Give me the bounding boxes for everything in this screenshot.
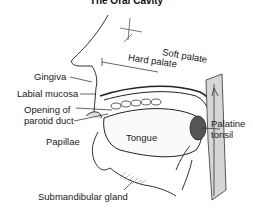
label-tongue: Tongue bbox=[126, 132, 157, 143]
label-gingiva: Gingiva bbox=[34, 71, 66, 82]
label-opening-line2: parotid duct bbox=[24, 115, 74, 126]
label-papillae: Papillae bbox=[46, 136, 80, 147]
label-submandibular-gland: Submandibular gland bbox=[38, 191, 128, 202]
label-palatine-tonsil: Palatine tonsil bbox=[211, 118, 245, 140]
label-labial-mucosa: Labial mucosa bbox=[17, 88, 78, 99]
label-opening-line1: Opening of bbox=[24, 104, 70, 115]
label-opening-of-parotid-duct: Opening of parotid duct bbox=[24, 104, 74, 126]
label-palatine-line1: Palatine bbox=[211, 118, 245, 129]
label-palatine-line2: tonsil bbox=[211, 129, 233, 140]
